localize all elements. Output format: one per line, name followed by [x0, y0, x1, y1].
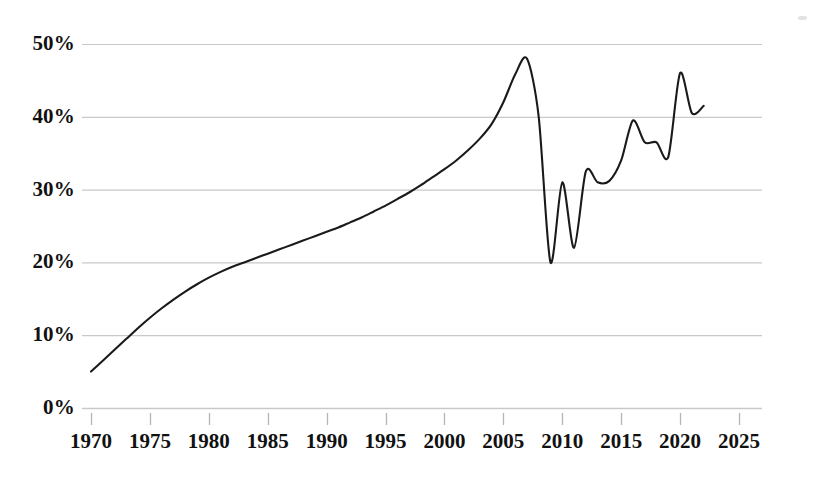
x-tick-label-2005: 2005: [473, 431, 533, 452]
y-tick-label-30pct: 30%: [32, 179, 75, 200]
x-tick-label-2000: 2000: [414, 431, 474, 452]
x-tick-label-1990: 1990: [297, 431, 357, 452]
x-tick-label-1980: 1980: [179, 431, 239, 452]
gridlines-group: [82, 45, 762, 409]
x-tick-label-2015: 2015: [591, 431, 651, 452]
y-tick-label-10pct: 10%: [32, 324, 75, 345]
y-tick-label-20pct: 20%: [32, 251, 75, 272]
series-lines-group: [91, 57, 704, 371]
x-tick-label-1995: 1995: [356, 431, 416, 452]
chart-plot-area: [0, 0, 815, 478]
y-tick-label-40pct: 40%: [32, 106, 75, 127]
x-tick-label-1970: 1970: [61, 431, 121, 452]
y-tick-label-50pct: 50%: [32, 33, 75, 54]
x-tick-marks-group: [92, 413, 740, 425]
x-tick-label-1985: 1985: [238, 431, 298, 452]
x-tick-label-2020: 2020: [650, 431, 710, 452]
chart-container: 0%10%20%30%40%50% 1970197519801985199019…: [0, 0, 815, 478]
y-tick-label-0pct: 0%: [43, 397, 75, 418]
x-tick-label-1975: 1975: [120, 431, 180, 452]
series-line-0: [91, 57, 704, 371]
x-tick-label-2010: 2010: [532, 431, 592, 452]
x-tick-label-2025: 2025: [709, 431, 769, 452]
